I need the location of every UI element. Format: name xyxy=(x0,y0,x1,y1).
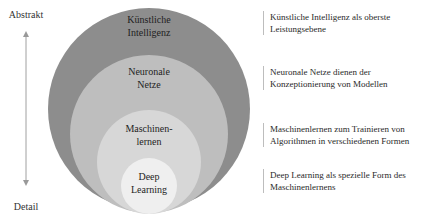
description-line: Maschinenlernen zum Trainieren von xyxy=(270,123,426,135)
description-line: Künstliche Intelligenz als oberste xyxy=(270,11,426,23)
description-line: Leistungsebene xyxy=(270,23,426,35)
circle-label-nn-line1: Neuronale xyxy=(128,66,170,77)
description-kuenstliche-intelligenz: Künstliche Intelligenz als oberste Leist… xyxy=(263,11,426,35)
description-neuronale-netze: Neuronale Netze dienen der Konzeptionier… xyxy=(263,66,426,90)
description-maschinenlernen: Maschinenlernen zum Trainieren von Algor… xyxy=(263,123,426,147)
circle-label-ml-line2: lernen xyxy=(137,136,162,147)
description-line: Deep Learning als spezielle Form des xyxy=(270,169,426,181)
circle-label-ki-line1: Künstliche xyxy=(127,14,171,25)
description-line: Neuronale Netze dienen der xyxy=(270,66,426,78)
description-line: Konzeptionierung von Modellen xyxy=(270,78,426,90)
circle-label-dl-line1: Deep xyxy=(138,171,159,182)
axis-label-abstrakt: Abstrakt xyxy=(9,9,44,20)
circle-label-nn-line2: Netze xyxy=(137,79,161,90)
circle-label-ml-line1: Maschinen- xyxy=(125,123,172,134)
description-line: Maschinenlernens xyxy=(270,181,426,193)
description-deep-learning: Deep Learning als spezielle Form des Mas… xyxy=(263,169,426,193)
description-line: Algorithmen in verschiedenen Formen xyxy=(270,135,426,147)
circle-label-dl-line2: Learning xyxy=(131,184,167,195)
axis-label-detail: Detail xyxy=(14,201,39,212)
circle-label-ki-line2: Intelligenz xyxy=(128,27,171,38)
